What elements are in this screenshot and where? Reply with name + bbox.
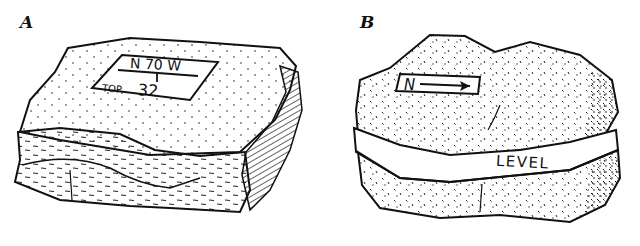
strike-text: N 70 W xyxy=(130,55,182,74)
top-text: TOP xyxy=(100,82,122,95)
panel-b: B N LEVEL xyxy=(320,0,640,246)
dip-value-text: 32 xyxy=(137,80,159,100)
rock-specimen-a: N 70 W TOP 32 xyxy=(0,0,320,246)
level-text: LEVEL xyxy=(496,152,550,173)
panel-a: A N 70 W TOP 32 xyxy=(0,0,320,246)
rock-specimen-b: N LEVEL xyxy=(320,0,640,246)
north-letter: N xyxy=(404,76,415,94)
